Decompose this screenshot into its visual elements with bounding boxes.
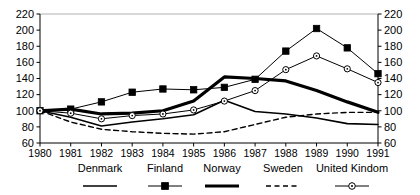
x-tick-label: 1989 [305,147,329,159]
series-layer [37,25,381,134]
y-tick-label-right: 200 [384,24,402,36]
x-tick-label: 1987 [243,147,267,159]
data-point-marker-dot [223,100,225,102]
legend-label-sweden: Sweden [263,162,303,174]
legend-label-denmark: Denmark [78,162,123,174]
x-tick-label: 1980 [28,147,52,159]
y-tick-label-right: 80 [384,121,396,133]
legend-label-norway: Norway [203,162,241,174]
data-point-marker-dot [193,109,195,111]
y-tick-label-right: 100 [384,105,402,117]
chart-container: 6080100120140160180200220 60801001201401… [0,0,420,195]
legend-label-united-kindom: United Kindom [316,162,388,174]
y-tick-label-left: 140 [16,72,34,84]
legend-marker-finland [162,183,169,190]
series-line [40,29,378,111]
data-point-marker [375,70,381,76]
x-axis: 1980198119821983198419851986198719881989… [28,143,390,159]
data-point-marker-dot [101,118,103,120]
data-point-marker-dot [254,90,256,92]
x-tick-label: 1983 [121,147,145,159]
legend-item-united-kindom[interactable]: United Kindom [316,162,388,189]
y-tick-label-right: 120 [384,88,402,100]
data-point-marker-dot [346,68,348,70]
legend-marker-dot-united-kindom [351,185,353,187]
data-point-marker [190,87,196,93]
y-axis-left: 6080100120140160180200220 [16,8,40,149]
chart-legend: DenmarkFinlandNorwaySwedenUnited Kindom [78,162,388,189]
data-point-marker-dot [285,69,287,71]
x-tick-label: 1981 [59,147,83,159]
legend-item-norway[interactable]: Norway [203,162,241,186]
data-point-marker [129,89,135,95]
data-point-marker-dot [70,112,72,114]
data-point-marker-dot [316,55,318,57]
x-tick-label: 1985 [182,147,206,159]
y-axis-right: 6080100120140160180200220 [378,8,402,149]
y-tick-label-right: 140 [384,72,402,84]
data-point-marker [221,84,227,90]
data-point-marker [344,45,350,51]
y-tick-label-left: 180 [16,40,34,52]
y-tick-label-left: 120 [16,88,34,100]
y-tick-label-right: 180 [384,40,402,52]
y-tick-label-left: 220 [16,8,34,20]
data-point-marker [283,48,289,54]
x-tick-label: 1991 [366,147,390,159]
y-tick-label-left: 160 [16,56,34,68]
data-point-marker [160,86,166,92]
x-tick-label: 1982 [90,147,114,159]
y-tick-label-left: 100 [16,105,34,117]
x-tick-label: 1988 [274,147,298,159]
data-point-marker-dot [377,82,379,84]
data-point-marker [98,99,104,105]
line-chart: 6080100120140160180200220 60801001201401… [0,0,420,195]
legend-item-finland[interactable]: Finland [147,162,183,189]
x-tick-label: 1990 [336,147,360,159]
x-tick-label: 1984 [151,147,175,159]
data-point-marker-dot [39,110,41,112]
y-tick-label-right: 220 [384,8,402,20]
x-tick-label: 1986 [213,147,237,159]
y-tick-label-left: 80 [22,121,34,133]
legend-item-sweden[interactable]: Sweden [263,162,303,186]
y-tick-label-left: 200 [16,24,34,36]
legend-item-denmark[interactable]: Denmark [78,162,123,186]
y-tick-label-right: 160 [384,56,402,68]
data-point-marker-dot [131,115,133,117]
data-point-marker [313,25,319,31]
data-point-marker-dot [162,113,164,115]
legend-label-finland: Finland [147,162,183,174]
series-finland [37,25,381,114]
